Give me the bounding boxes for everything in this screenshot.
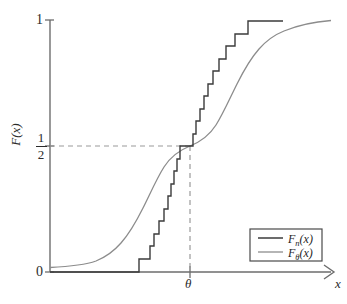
x-axis-label: x: [335, 277, 341, 290]
y-axis-tick-label-0: 0: [36, 265, 43, 279]
fraction-numerator: 1: [33, 131, 49, 145]
ecdf-figure: 1 0 1 2 F(x) θ x Fn(x) Fθ(x): [0, 0, 347, 304]
x-axis-tick-label-theta: θ: [185, 277, 191, 290]
legend-label-empirical-arg: (x): [300, 232, 313, 246]
y-axis-tick-label-half: 1 2: [33, 131, 49, 161]
legend-label-theoretical-cdf: Fθ(x): [288, 246, 313, 262]
legend-label-theoretical-arg: (x): [300, 246, 313, 260]
y-axis-label: F(x): [9, 123, 22, 145]
empirical-cdf-step: [50, 21, 283, 272]
y-axis-tick-label-1: 1: [36, 13, 43, 27]
fraction-denominator: 2: [33, 148, 49, 162]
